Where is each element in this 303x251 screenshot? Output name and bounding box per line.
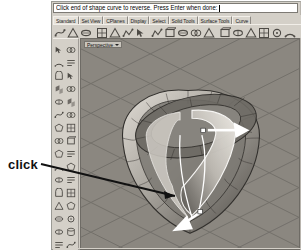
circle-icon[interactable] [54,80,66,92]
join-icon[interactable] [66,236,78,248]
surface-edge-curves-icon[interactable] [66,106,78,118]
ellipse-icon[interactable] [66,80,78,92]
surface-plane-icon[interactable] [54,106,66,118]
boolean-difference-icon[interactable] [66,171,78,183]
arc-icon[interactable] [66,67,78,79]
tab-solid-tools[interactable]: Solid Tools [169,16,198,24]
sweep-1-rail-icon[interactable] [258,25,271,38]
extrude-surface-icon[interactable] [232,25,245,38]
sphere-icon[interactable] [66,145,78,157]
array-icon[interactable] [54,223,66,235]
status-bar [53,248,301,249]
point-object-icon[interactable] [80,25,93,38]
arc-center-icon[interactable] [151,25,164,38]
cylinder-icon[interactable] [54,158,66,170]
perspective-viewport[interactable]: Perspective [80,38,300,250]
cone-icon[interactable] [66,158,78,170]
surface-from-curves-icon[interactable] [219,25,232,38]
tab-curve[interactable]: Curve [232,16,251,24]
extrude-icon[interactable] [54,119,66,131]
tab-display[interactable]: Display [128,16,150,24]
ring-band-model [81,39,299,249]
box-icon[interactable] [54,145,66,157]
curve-end-point-upper [201,128,205,132]
polyline-icon[interactable] [54,54,66,66]
rectangle-icon[interactable] [54,93,66,105]
rectangle-icon[interactable] [177,25,190,38]
curve-interpolate-icon[interactable] [109,25,122,38]
mirror-icon[interactable] [66,210,78,222]
command-prompt-bar[interactable]: Click end of shape curve to reverse. Pre… [53,3,298,13]
fillet-edge-icon[interactable] [54,184,66,196]
viewport-title-label: Perspective [87,42,113,48]
circle-center-icon[interactable] [135,25,148,38]
tab-standard[interactable]: Standard [53,16,79,24]
loft-icon[interactable] [54,132,66,144]
rhino-application-window: Click end of shape curve to reverse. Pre… [51,1,301,250]
box-solid-icon[interactable] [300,25,301,38]
chevron-down-icon [115,44,119,46]
tab-surface-tools[interactable]: Surface Tools [198,16,233,24]
shell-icon[interactable] [66,184,78,196]
tab-cplanes[interactable]: CPlanes [103,16,127,24]
boolean-union-icon[interactable] [54,171,66,183]
tab-select[interactable]: Select [149,16,168,24]
revolve-surface-icon[interactable] [245,25,258,38]
line-segment-icon[interactable] [66,54,78,66]
main-toolbar[interactable] [53,24,301,38]
select-by-filter-icon[interactable] [67,25,80,38]
point-icon[interactable] [66,41,78,53]
loft-surface-icon[interactable] [284,25,297,38]
revolve-icon[interactable] [66,119,78,131]
curve-end-point-lower [198,209,202,213]
trim-icon[interactable] [66,223,78,235]
split-icon[interactable] [54,236,66,248]
explode-icon[interactable] [54,249,66,250]
scale-icon[interactable] [54,210,66,222]
polygon-icon[interactable] [66,93,78,105]
offset-icon[interactable] [66,249,78,250]
sweep-2-rail-icon[interactable] [271,25,284,38]
left-tool-palette[interactable] [53,38,79,250]
select-arrow-icon[interactable] [54,41,66,53]
curve-icon[interactable] [54,67,66,79]
annotation-click-label: click [8,157,38,172]
polyline-icon[interactable] [96,25,109,38]
command-input-caret [219,5,220,12]
freeform-curve-icon[interactable] [203,25,216,38]
sweep-icon[interactable] [66,132,78,144]
transform-move-icon[interactable] [54,197,66,209]
ellipse-icon[interactable] [164,25,177,38]
command-prompt-text: Click end of shape curve to reverse. Pre… [54,4,217,12]
tab-set-view[interactable]: Set View [79,16,104,24]
polygon-icon[interactable] [190,25,203,38]
toolbar-tab-bar[interactable]: StandardSet ViewCPlanesDisplaySelectSoli… [53,15,301,24]
viewport-title-dropdown[interactable]: Perspective [84,41,122,48]
curve-control-points-icon[interactable] [122,25,135,38]
rotate-icon[interactable] [66,197,78,209]
select-objects-icon[interactable] [54,25,67,38]
